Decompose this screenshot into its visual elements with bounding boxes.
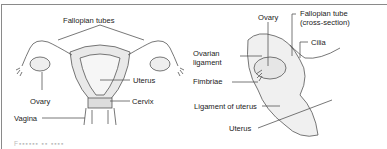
label-fallopian-tube-cross-section-2: (cross-section) xyxy=(300,18,350,27)
label-ovary-right: Ovary xyxy=(258,13,278,22)
label-uterus-right: Uterus xyxy=(229,124,251,133)
label-ovarian-ligament-2: ligament xyxy=(193,58,222,67)
label-fimbriae: Fimbriae xyxy=(193,77,223,86)
figure-caption-truncated: F▪▪▪▪▪▪ ▪▪ ▪▪▪▪ xyxy=(14,140,64,147)
label-fallopian-tube-cross-section-1: Fallopian tube xyxy=(300,9,348,18)
label-uterus: Uterus xyxy=(133,76,155,85)
label-fallopian-tubes: Fallopian tubes xyxy=(63,16,115,25)
label-cilia: Cilia xyxy=(311,38,326,47)
label-ovarian-ligament-1: Ovarian xyxy=(193,49,220,58)
label-vagina: Vagina xyxy=(14,114,37,123)
label-cervix: Cervix xyxy=(132,97,154,106)
label-ovary-left: Ovary xyxy=(30,97,50,106)
label-ligament-of-uterus: Ligament of uterus xyxy=(194,102,257,111)
